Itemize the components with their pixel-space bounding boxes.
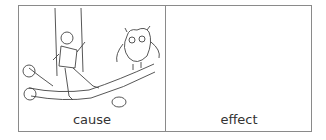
boy-swing-owl-illustration xyxy=(19,6,165,116)
cause-effect-table: cause effect xyxy=(18,5,312,132)
cause-cell: cause xyxy=(19,6,165,131)
effect-cell: effect xyxy=(166,6,312,131)
effect-label: effect xyxy=(166,112,312,127)
cause-label: cause xyxy=(19,112,165,127)
